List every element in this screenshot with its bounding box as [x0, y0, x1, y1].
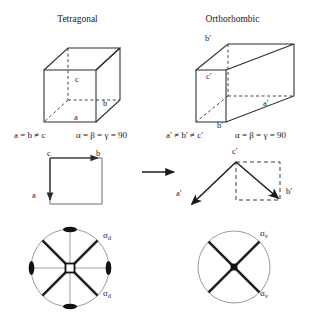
orthorhombic-angle-relation: α = β = γ = 90 [235, 130, 286, 140]
orthorhombic-label-c: c′ [206, 71, 212, 81]
orthorhombic-label-b-bottom: b′ [217, 120, 223, 130]
panel-title-orthorhombic: Orthorhombic [155, 14, 310, 24]
sigma-subscript: d [108, 292, 111, 299]
tetragonal-label-c: c [75, 74, 79, 84]
tetragonal-mirror-label-bottom: σd [103, 288, 111, 299]
orthorhombic-projection-label-a: a′ [176, 188, 182, 198]
sigma-subscript: v [265, 232, 268, 239]
tetragonal-lattice-relation: a = b ≠ c [14, 130, 46, 140]
panel-title-tetragonal: Tetragonal [0, 14, 155, 24]
orthorhombic-lattice-relation: a′ ≠ b′ ≠ c′ [166, 130, 203, 140]
orthorhombic-label-b-top: b′ [205, 33, 211, 43]
tetragonal-unit-cell [30, 34, 140, 129]
tetragonal-projection-label-c: c [47, 148, 51, 158]
tetragonal-label-b: b [103, 98, 107, 108]
sigma-subscript: d [108, 234, 111, 241]
orthorhombic-mirror-label-bottom: σv [260, 288, 268, 299]
tetragonal-axes-projection [40, 148, 118, 210]
tetragonal-mirror-label-top: σd [103, 230, 111, 241]
orthorhombic-unit-cell [186, 38, 304, 130]
orthorhombic-mirror-label-top: σv [260, 228, 268, 239]
tetragonal-projection-label-a: a [32, 190, 36, 200]
tetragonal-angle-relation: α = β = γ = 90 [76, 130, 127, 140]
orthorhombic-axes-projection [178, 148, 298, 214]
figure-canvas: Tetragonal Orthorhombic c b a [0, 0, 310, 315]
orthorhombic-label-a: a′ [263, 98, 269, 108]
tetragonal-label-a: a [74, 112, 78, 122]
orthorhombic-projection-label-c: c′ [232, 146, 238, 156]
tetragonal-projection-label-b: b [96, 148, 100, 158]
sigma-subscript: v [265, 292, 268, 299]
orthorhombic-projection-label-b: b′ [286, 186, 292, 196]
